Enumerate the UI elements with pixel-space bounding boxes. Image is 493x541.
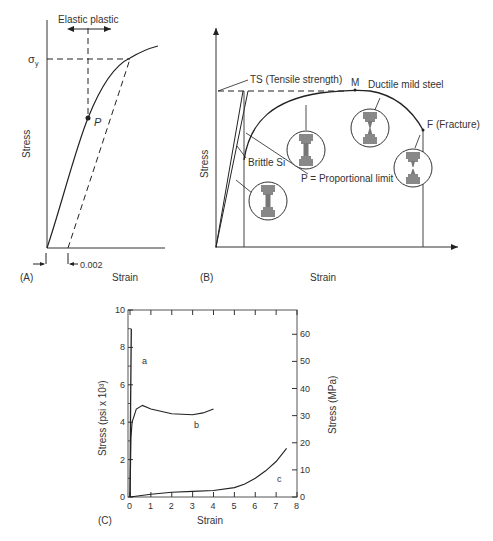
curve-b-label: b: [194, 420, 199, 430]
panel-b-label: (B): [200, 272, 213, 283]
x-tick-label: 3: [190, 501, 195, 511]
region-label: Elastic plastic: [58, 14, 119, 25]
y-left-tick-label: 4: [120, 417, 125, 427]
x-tick-label: 2: [169, 501, 174, 511]
y-right-tick-label: 40: [300, 384, 310, 394]
y-left-tick-label: 10: [115, 305, 125, 315]
curve-c: [130, 448, 287, 497]
brittle-label: Brittle Si: [248, 157, 285, 168]
panel-a-curve: [47, 46, 158, 248]
y-left-tick-label: 6: [120, 380, 125, 390]
ductile-label: Ductile mild steel: [368, 79, 444, 90]
curve-a-label: a: [142, 356, 147, 366]
panel-a-label: (A): [20, 272, 33, 283]
sigma-sub: y: [35, 60, 39, 68]
x-tick-label: 4: [211, 501, 216, 511]
curve-c-label: c: [277, 474, 282, 484]
point-p: [86, 116, 91, 121]
y-right-tick-label: 10: [300, 465, 310, 475]
panel-c-label: (C): [98, 515, 112, 526]
ts-label: TS (Tensile strength): [250, 74, 342, 85]
panel-c-xlabel: Strain: [197, 515, 223, 526]
x-tick-label: 8: [294, 501, 299, 511]
x-tick-label: 0: [127, 501, 132, 511]
specimen-icon-fractured: [394, 135, 432, 187]
y-left-tick-label: 0: [120, 492, 125, 502]
y-left-tick-label: 2: [120, 455, 125, 465]
specimen-icon-necking: [351, 98, 389, 147]
m-label: M: [351, 77, 359, 88]
y-right-tick-label: 50: [300, 356, 310, 366]
y-left-tick-label: 8: [120, 342, 125, 352]
x-tick-label: 7: [273, 501, 278, 511]
offset-dashed-line: [68, 59, 130, 248]
panel-b: TS (Tensile strength) M Ductile mild ste…: [199, 28, 480, 283]
curve-b: [130, 405, 214, 497]
x-tick-label: 6: [252, 501, 257, 511]
x-tick-label: 1: [148, 501, 153, 511]
panel-c-ylabel-right: Stress (MPa): [327, 376, 338, 434]
figure: Elastic plastic P σ y Stress 0.002 (A) S…: [0, 0, 493, 541]
y-right-tick-label: 0: [300, 492, 305, 502]
x-tick-label: 5: [231, 501, 236, 511]
panel-a: Elastic plastic P σ y Stress 0.002 (A) S…: [20, 14, 165, 283]
panel-c-ylabel-left: Stress (psi x 10³): [97, 380, 108, 456]
brittle-si-line: [216, 91, 243, 247]
y-right-tick-label: 30: [300, 411, 310, 421]
specimen-icon-intact-upper: [287, 105, 325, 169]
sigma-label: σ: [28, 53, 35, 65]
panel-a-xlabel: Strain: [112, 272, 138, 283]
panel-b-xlabel: Strain: [310, 272, 336, 283]
y-right-tick-label: 20: [300, 438, 310, 448]
panel-a-ylabel: Stress: [21, 130, 32, 158]
panel-c: 01234567802468100102030405060 Stress (ps…: [97, 305, 338, 526]
proportional-limit-label: P = Proportional limit: [301, 173, 394, 184]
point-p-label: P: [94, 116, 102, 128]
panel-c-plot-frame: [128, 310, 297, 497]
fracture-label: F (Fracture): [427, 119, 480, 130]
panel-b-ylabel: Stress: [199, 150, 210, 178]
y-right-tick-label: 60: [300, 329, 310, 339]
offset-label: 0.002: [80, 260, 103, 270]
